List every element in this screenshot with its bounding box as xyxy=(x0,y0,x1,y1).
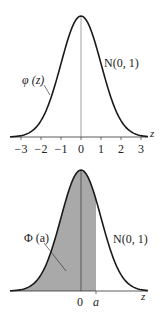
tick-label: 2 xyxy=(118,142,124,156)
cdf-area-plot: Φ (a) N(0, 1) 0 a z xyxy=(10,170,148,309)
tick-label: −3 xyxy=(15,142,28,156)
axis-label: z xyxy=(140,290,146,302)
tick-label: 1 xyxy=(98,142,104,156)
tick-label: 3 xyxy=(138,142,144,156)
figure: −3−2−10123 φ (z) N(0, 1) z Φ (a) N(0, 1)… xyxy=(0,0,166,320)
pdf-plot: −3−2−10123 φ (z) N(0, 1) z xyxy=(10,16,155,156)
curve-label-leader xyxy=(44,85,50,95)
tick-label-zero: 0 xyxy=(77,295,83,309)
dist-label: N(0, 1) xyxy=(113,232,148,246)
tick-label: 0 xyxy=(78,142,84,156)
tick-label-a: a xyxy=(93,295,99,309)
area-label: Φ (a) xyxy=(24,231,49,245)
tick-label: −1 xyxy=(55,142,68,156)
tick-label: −2 xyxy=(35,142,48,156)
axis-label: z xyxy=(149,127,155,139)
x-ticks: −3−2−10123 xyxy=(15,137,144,156)
curve-label: φ (z) xyxy=(22,73,44,87)
shaded-area xyxy=(10,170,96,291)
dist-label: N(0, 1) xyxy=(104,56,139,70)
